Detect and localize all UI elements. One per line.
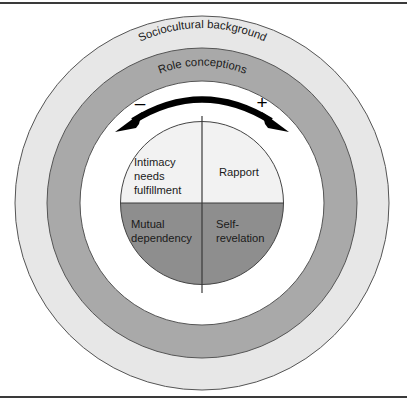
quadrant-label-line: Self- — [216, 218, 239, 230]
quadrant-label-line: fulfillment — [134, 184, 182, 196]
plus-sign-label: + — [256, 92, 267, 113]
quadrant-label-line: needs — [134, 170, 165, 182]
top-divider-rule — [0, 2, 407, 4]
quadrant-label-line: Intimacy — [134, 156, 176, 168]
concentric-diagram: Sociocultural background Role conception… — [0, 0, 407, 405]
quadrant-label-line: dependency — [131, 232, 192, 244]
bottom-divider-rule — [0, 396, 407, 398]
minus-sign-label: – — [135, 92, 146, 113]
quadrant-label-rapport: Rapport — [219, 166, 260, 178]
quadrant-label-line: Mutual — [131, 218, 165, 230]
figure-container: Sociocultural background Role conception… — [0, 0, 407, 405]
quadrant-label-line: Rapport — [219, 166, 260, 178]
quadrant-label-line: revelation — [216, 232, 265, 244]
